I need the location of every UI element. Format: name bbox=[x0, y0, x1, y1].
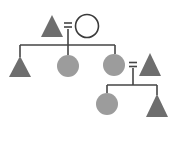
male-triangle-g2-spouse bbox=[139, 53, 161, 76]
male-triangle-g3-son bbox=[146, 94, 168, 117]
marriage-equals-icon-g2 bbox=[129, 63, 137, 67]
male-triangle-g2-son bbox=[9, 56, 31, 77]
male-triangle-g1 bbox=[41, 15, 63, 37]
female-circle-g2-daughter-1 bbox=[57, 55, 79, 77]
female-circle-g2-daughter-2 bbox=[103, 54, 125, 76]
kinship-diagram bbox=[0, 0, 185, 145]
female-circle-g3-daughter bbox=[96, 93, 118, 115]
marriage-equals-icon-g1 bbox=[64, 23, 72, 27]
female-circle-g1-outline bbox=[76, 15, 99, 38]
